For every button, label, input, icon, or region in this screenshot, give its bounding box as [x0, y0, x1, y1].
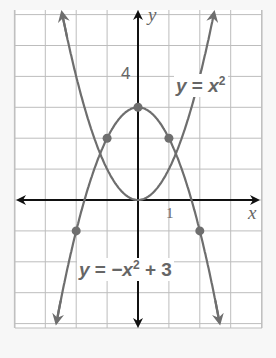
eq-neg-x: −x — [111, 259, 133, 280]
eq-exp: 2 — [219, 74, 226, 88]
eq-tail: + 3 — [145, 259, 172, 280]
plotted-point — [72, 226, 81, 235]
eq-equals: = — [95, 259, 106, 280]
equation-label-neg-x-squared-plus-3: y = −x2 + 3 — [77, 258, 174, 281]
eq-y: y — [79, 259, 90, 280]
plotted-point — [164, 134, 173, 143]
eq-x: x — [208, 75, 219, 96]
x-axis-label: x — [248, 202, 256, 224]
plotted-point — [103, 134, 112, 143]
y-axis-label: y — [148, 4, 156, 26]
plotted-point — [134, 103, 143, 112]
coordinate-graph — [0, 0, 276, 358]
x-tick-1: 1 — [166, 205, 174, 222]
eq-exp: 2 — [133, 258, 140, 272]
eq-y: y — [176, 75, 187, 96]
equation-label-x-squared: y = x2 — [174, 74, 228, 97]
plotted-point — [195, 226, 204, 235]
eq-equals: = — [192, 75, 203, 96]
y-tick-4: 4 — [121, 64, 130, 84]
